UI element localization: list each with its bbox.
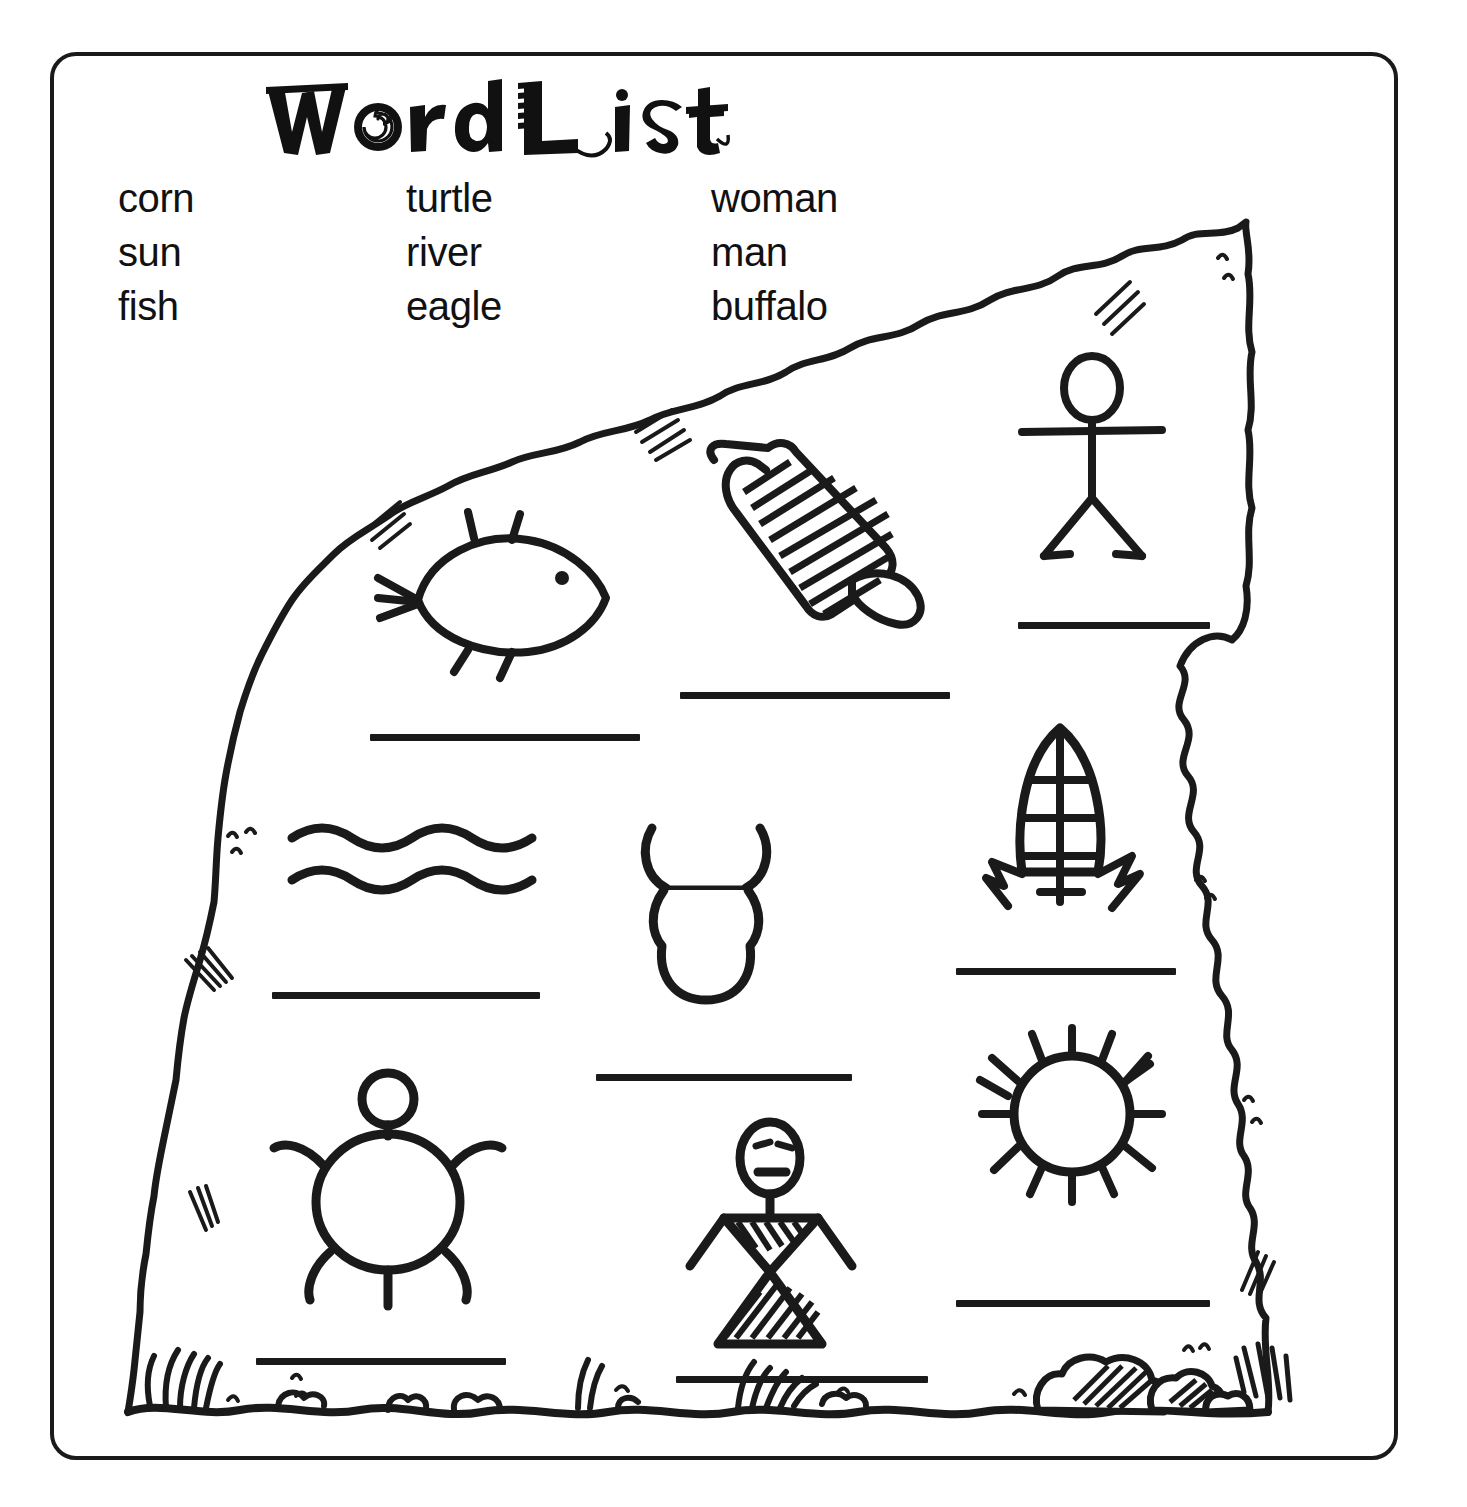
worksheet-page: corn turtle woman sun river man fish eag… — [0, 0, 1467, 1507]
blank-fish[interactable] — [370, 734, 640, 741]
word-list-row: fish eagle buffalo — [118, 283, 898, 337]
word-river: river — [406, 229, 711, 275]
blank-turtle[interactable] — [256, 1358, 506, 1365]
word-turtle: turtle — [406, 175, 711, 221]
blank-river[interactable] — [272, 992, 540, 999]
word-woman: woman — [711, 175, 838, 221]
word-list-row: corn turtle woman — [118, 175, 898, 229]
blank-buffalo[interactable] — [596, 1074, 852, 1081]
page-title — [262, 78, 732, 158]
blank-eagle[interactable] — [680, 692, 950, 699]
word-man: man — [711, 229, 788, 275]
word-fish: fish — [118, 283, 406, 329]
blank-woman[interactable] — [676, 1376, 928, 1383]
blank-sun[interactable] — [956, 1300, 1210, 1307]
blank-corn[interactable] — [956, 968, 1176, 975]
word-list: corn turtle woman sun river man fish eag… — [118, 175, 898, 337]
word-corn: corn — [118, 175, 406, 221]
blank-man[interactable] — [1018, 622, 1210, 629]
word-buffalo: buffalo — [711, 283, 828, 329]
word-list-row: sun river man — [118, 229, 898, 283]
word-sun: sun — [118, 229, 406, 275]
word-eagle: eagle — [406, 283, 711, 329]
